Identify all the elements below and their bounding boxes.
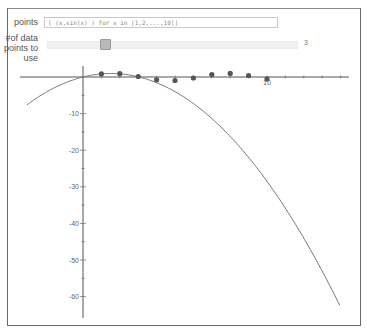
svg-text:-30: -30 xyxy=(69,183,79,190)
svg-text:10: 10 xyxy=(263,79,271,86)
axes xyxy=(20,66,349,318)
svg-text:-40: -40 xyxy=(69,220,79,227)
tick-labels: -10-20-30-40-50-6010 xyxy=(69,79,271,300)
svg-text:-10: -10 xyxy=(69,110,79,117)
chart: -10-20-30-40-50-6010 xyxy=(0,0,367,328)
svg-text:-60: -60 xyxy=(69,293,79,300)
svg-text:-20: -20 xyxy=(69,147,79,154)
svg-text:-50: -50 xyxy=(69,257,79,264)
